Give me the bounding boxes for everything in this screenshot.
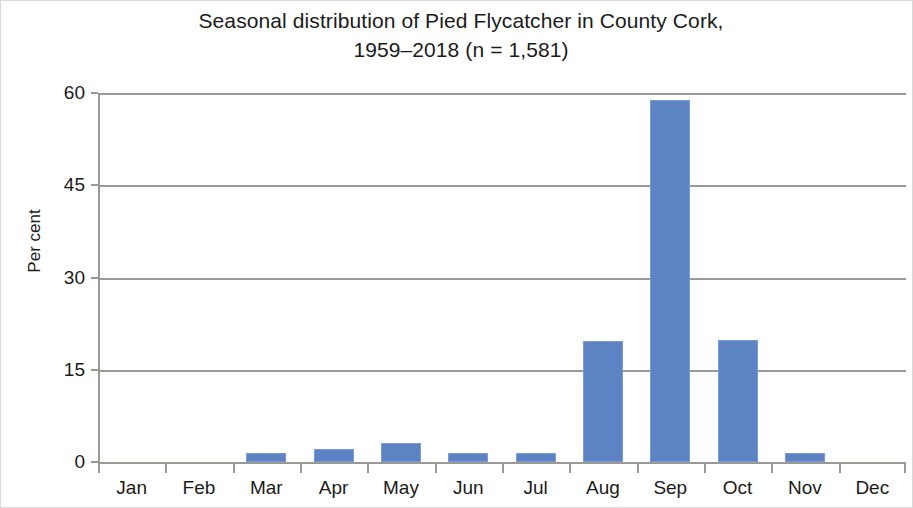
x-tick-mark [165, 462, 167, 473]
bar-oct[interactable] [718, 340, 758, 462]
bar-sep[interactable] [650, 100, 690, 462]
y-tick-mark [91, 461, 98, 463]
x-axis-ticks [98, 462, 906, 473]
x-tick-slot [165, 462, 232, 473]
x-tick-slot [98, 462, 165, 473]
x-tick-slot [704, 462, 771, 473]
x-axis-label-aug: Aug [569, 477, 636, 499]
y-tick-mark [91, 184, 98, 186]
bar-jun[interactable] [448, 453, 488, 462]
x-tick-mark [569, 462, 571, 473]
x-axis-label-nov: Nov [771, 477, 838, 499]
y-tick-label: 15 [64, 359, 85, 381]
x-axis-label-jul: Jul [502, 477, 569, 499]
y-axis-title: Per cent [25, 171, 45, 311]
y-tick-mark [91, 92, 98, 94]
bar-slot [165, 93, 232, 462]
x-tick-slot [367, 462, 434, 473]
x-tick-slot [771, 462, 838, 473]
x-tick-mark [233, 462, 235, 473]
bar-slot [233, 93, 300, 462]
y-tick-label: 0 [74, 451, 85, 473]
y-tick-label: 30 [64, 267, 85, 289]
x-tick-mark [300, 462, 302, 473]
bar-slot [839, 93, 906, 462]
x-tick-slot [502, 462, 569, 473]
bar-jul[interactable] [516, 453, 556, 462]
bar-mar[interactable] [246, 453, 286, 462]
bar-slot [637, 93, 704, 462]
x-tick-slot [839, 462, 906, 473]
y-tick-mark [91, 277, 98, 279]
x-tick-mark [435, 462, 437, 473]
x-tick-mark [98, 462, 100, 473]
y-tick-label: 45 [64, 174, 85, 196]
bar-slot [98, 93, 165, 462]
x-axis-label-feb: Feb [165, 477, 232, 499]
x-axis-labels: JanFebMarAprMayJunJulAugSepOctNovDec [98, 477, 906, 499]
x-tick-mark [367, 462, 369, 473]
bar-slot [435, 93, 502, 462]
bar-aug[interactable] [583, 341, 623, 462]
x-tick-slot [435, 462, 502, 473]
x-tick-mark [771, 462, 773, 473]
chart-figure: Seasonal distribution of Pied Flycatcher… [0, 0, 913, 508]
bar-slot [569, 93, 636, 462]
x-axis-label-sep: Sep [637, 477, 704, 499]
x-tick-slot [569, 462, 636, 473]
y-tick-mark [91, 369, 98, 371]
x-tick-slot [233, 462, 300, 473]
x-axis-label-oct: Oct [704, 477, 771, 499]
chart-title: Seasonal distribution of Pied Flycatcher… [61, 6, 861, 64]
x-tick-slot [300, 462, 367, 473]
x-tick-mark [704, 462, 706, 473]
bar-slot [502, 93, 569, 462]
x-axis-label-may: May [367, 477, 434, 499]
plot-area: 015304560 [98, 93, 906, 462]
x-tick-mark [637, 462, 639, 473]
y-tick-label: 60 [64, 82, 85, 104]
x-tick-mark [502, 462, 504, 473]
bar-nov[interactable] [785, 453, 825, 462]
bar-slot [367, 93, 434, 462]
x-axis-label-mar: Mar [233, 477, 300, 499]
bar-series [98, 93, 906, 462]
bar-slot [771, 93, 838, 462]
bar-slot [704, 93, 771, 462]
x-tick-mark [904, 462, 906, 473]
x-axis-label-jun: Jun [435, 477, 502, 499]
bar-may[interactable] [381, 443, 421, 462]
x-tick-slot [637, 462, 704, 473]
bar-apr[interactable] [314, 449, 354, 462]
x-tick-mark [839, 462, 841, 473]
x-axis-label-apr: Apr [300, 477, 367, 499]
bar-slot [300, 93, 367, 462]
x-axis-label-dec: Dec [839, 477, 906, 499]
x-axis-label-jan: Jan [98, 477, 165, 499]
